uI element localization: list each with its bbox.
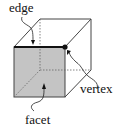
edge-arrow-icon (31, 40, 35, 45)
facet-label: facet (25, 112, 51, 127)
front-facet (14, 47, 65, 97)
edge-pointer-line (22, 17, 33, 42)
vertex-label: vertex (80, 81, 113, 96)
vertex-arrow-icon (67, 50, 71, 55)
cube-diagram: edge vertex facet (0, 0, 117, 129)
edge-label: edge (9, 0, 34, 15)
vertex-dot (62, 44, 67, 49)
